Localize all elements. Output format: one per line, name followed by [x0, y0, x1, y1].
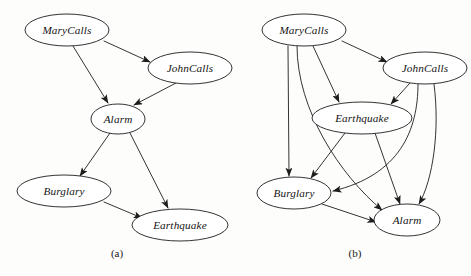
node-johncalls-b[interactable]: JohnCalls [383, 52, 467, 84]
node-label: Alarm [103, 113, 133, 125]
edge-marycalls-johncalls [342, 41, 387, 62]
edge-johncalls-burglary [333, 84, 418, 191]
panel-b: MaryCalls JohnCalls Earthquake Burglary … [257, 14, 467, 260]
edge-marycalls-alarm [73, 46, 108, 103]
node-label: JohnCalls [167, 62, 214, 74]
node-burglary-a[interactable]: Burglary [17, 175, 111, 207]
node-label: JohnCalls [402, 62, 449, 74]
panel-b-caption: (b) [349, 247, 362, 260]
node-label: Burglary [273, 187, 314, 199]
edge-marycalls-burglary [288, 46, 289, 176]
node-label: Earthquake [334, 112, 389, 124]
node-label: MaryCalls [278, 24, 329, 36]
edge-alarm-earthquake [130, 133, 168, 208]
edge-burglary-earthquake [104, 202, 142, 218]
node-label: Alarm [392, 214, 422, 226]
node-label: MaryCalls [41, 24, 92, 36]
edge-marycalls-earthquake [313, 46, 339, 102]
node-alarm-a[interactable]: Alarm [91, 104, 145, 134]
edge-earthquake-alarm [375, 133, 400, 204]
node-label: Earthquake [152, 219, 207, 231]
panel-a: MaryCalls JohnCalls Alarm Burglary Earth… [17, 14, 232, 260]
node-earthquake-b[interactable]: Earthquake [312, 102, 412, 134]
edge-burglary-alarm [322, 204, 376, 222]
edge-marycalls-johncalls [104, 41, 150, 62]
node-earthquake-a[interactable]: Earthquake [132, 209, 228, 241]
node-johncalls-a[interactable]: JohnCalls [148, 52, 232, 84]
panel-a-caption: (a) [111, 247, 124, 260]
node-burglary-b[interactable]: Burglary [257, 177, 331, 209]
edge-johncalls-alarm [134, 83, 176, 105]
node-marycalls-b[interactable]: MaryCalls [262, 14, 346, 46]
edge-johncalls-earthquake [391, 83, 410, 104]
edge-johncalls-alarm [419, 84, 436, 204]
edge-alarm-burglary [80, 133, 110, 176]
node-alarm-b[interactable]: Alarm [374, 204, 440, 236]
edge-earthquake-burglary [311, 133, 345, 178]
bayesian-network-figure: MaryCalls JohnCalls Alarm Burglary Earth… [0, 0, 471, 276]
node-label: Burglary [43, 185, 84, 197]
node-marycalls-a[interactable]: MaryCalls [25, 14, 109, 46]
figure-root: MaryCalls JohnCalls Alarm Burglary Earth… [0, 0, 471, 276]
